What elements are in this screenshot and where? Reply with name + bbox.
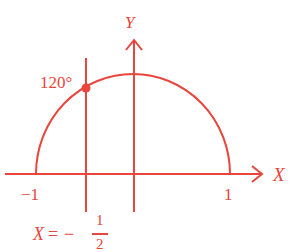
fraction-denominator: 2 [96,237,104,252]
fraction-numerator: 1 [96,213,104,228]
equation-lhs: X [33,225,44,243]
x-axis-label: X [273,165,285,184]
tick-label-one: 1 [224,186,233,203]
angle-label: 120° [40,74,72,91]
equation-equals: = [48,225,58,243]
fraction-bar [92,233,108,235]
point-120-degrees [82,84,91,93]
y-axis-label: Y [125,14,134,31]
equation-minus: − [64,225,74,243]
tick-label-neg-one: −1 [21,186,39,203]
